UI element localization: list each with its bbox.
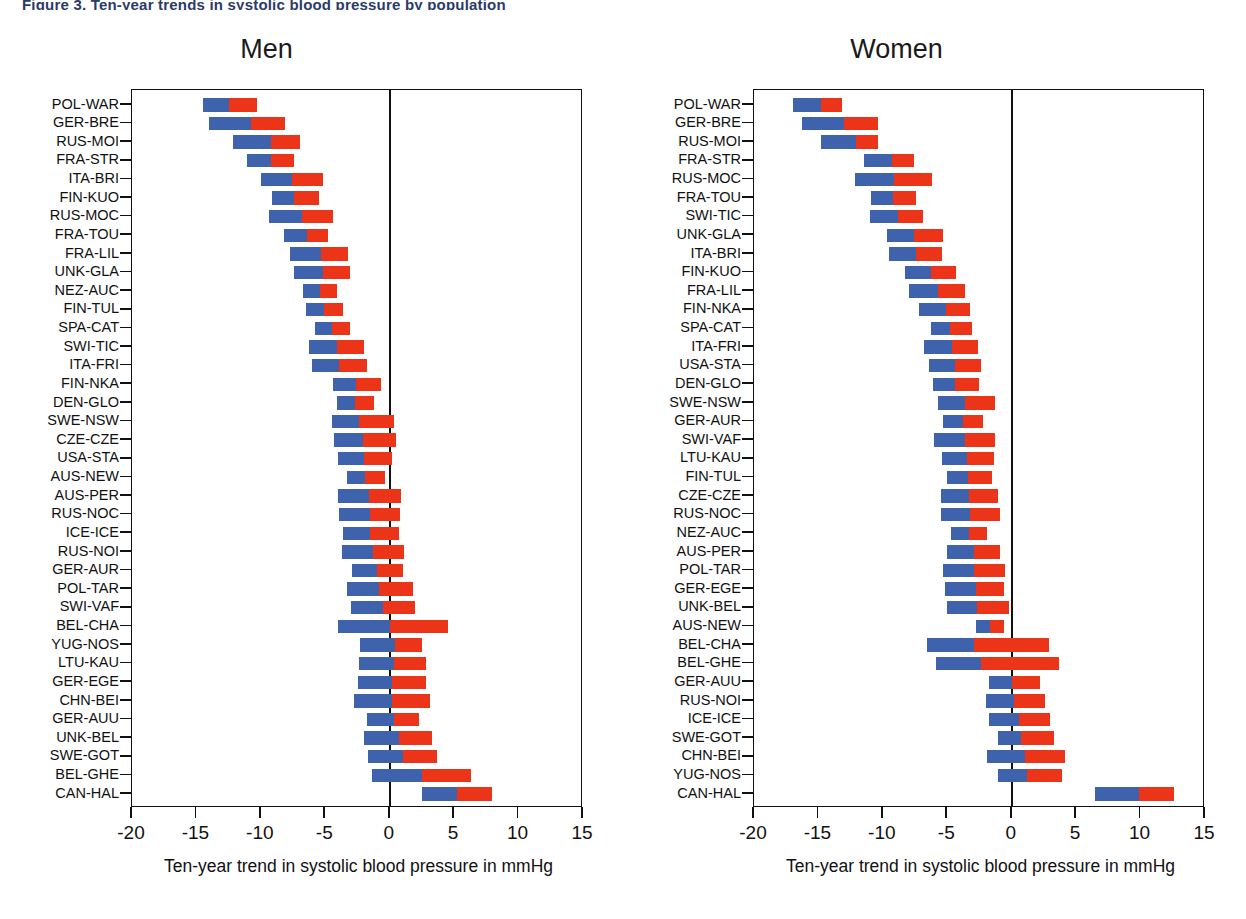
bar-segment-1 [936, 657, 981, 670]
bar-row [132, 710, 581, 729]
bar-segment-2 [364, 452, 392, 465]
y-axis-tick-label: RUS-NOC [673, 504, 741, 523]
x-axis-tick-mark [581, 807, 583, 818]
x-axis-tick-label: -10 [246, 821, 273, 845]
y-axis-tick-mark [742, 774, 753, 776]
y-axis-tick-label: ICE-ICE [688, 709, 741, 728]
bar-segment-1 [338, 489, 369, 502]
y-axis-tick-label: GER-AUU [674, 672, 741, 691]
bar-segment-1 [358, 676, 393, 689]
bar-row [132, 263, 581, 282]
bar-row [132, 282, 581, 301]
x-axis-tick-mark [452, 807, 454, 818]
bar-segment-1 [261, 173, 292, 186]
bar-segment-1 [309, 340, 337, 353]
y-axis-tick-label: SWE-GOT [672, 728, 741, 747]
y-axis-tick-mark [120, 196, 131, 198]
y-axis-tick-mark [120, 159, 131, 161]
y-axis-tick-mark [742, 382, 753, 384]
bar-row [754, 617, 1203, 636]
plot-area-men [131, 89, 582, 807]
y-axis-tick-label: GER-AUR [52, 560, 119, 579]
y-axis-tick-label: USA-STA [57, 448, 119, 467]
y-axis-tick-mark [120, 494, 131, 496]
y-axis-tick-mark [120, 382, 131, 384]
bar-segment-1 [372, 769, 422, 782]
x-axis-tick-mark [1074, 807, 1076, 818]
bar-segment-2 [974, 638, 1049, 651]
y-axis-tick-label: AUS-NEW [51, 467, 119, 486]
y-axis-tick-mark [120, 308, 131, 310]
bar-row [132, 524, 581, 543]
bar-segment-1 [989, 713, 1020, 726]
y-axis-tick-mark [120, 531, 131, 533]
y-axis-tick-mark [742, 587, 753, 589]
bar-segment-1 [364, 731, 399, 744]
bar-segment-2 [892, 154, 914, 167]
bar-segment-2 [968, 471, 992, 484]
bar-segment-2 [990, 620, 1004, 633]
bar-segment-1 [269, 210, 303, 223]
y-axis-tick-label: FIN-KUO [59, 188, 119, 207]
y-axis-tick-mark [742, 308, 753, 310]
bar-segment-2 [399, 731, 433, 744]
y-axis-tick-mark [742, 494, 753, 496]
y-axis-tick-mark [120, 680, 131, 682]
y-axis-tick-label: SPA-CAT [680, 318, 741, 337]
y-axis-tick-mark [742, 289, 753, 291]
x-axis-tick-label: -5 [316, 821, 333, 845]
bar-segment-1 [909, 284, 939, 297]
bar-segment-1 [934, 433, 965, 446]
bar-segment-2 [229, 98, 257, 111]
bar-segment-1 [352, 564, 376, 577]
bar-row [132, 96, 581, 115]
y-axis-tick-label: AUS-PER [55, 486, 119, 505]
x-axis-tick-label: 0 [1005, 821, 1016, 845]
y-axis-tick-mark [120, 103, 131, 105]
y-axis-tick-label: CAN-HAL [677, 784, 741, 803]
y-axis-tick-mark [742, 327, 753, 329]
bar-segment-1 [354, 694, 393, 707]
y-axis-tick-label: SWI-TIC [685, 206, 741, 225]
y-axis-tick-label: FIN-KUO [681, 262, 741, 281]
y-axis-tick-mark [742, 233, 753, 235]
bar-segment-1 [941, 508, 971, 521]
bar-segment-2 [1019, 713, 1050, 726]
bar-row [754, 673, 1203, 692]
x-axis-tick-mark [1139, 807, 1141, 818]
x-axis-tick-mark [195, 807, 197, 818]
bar-segment-2 [363, 433, 397, 446]
bar-row [132, 375, 581, 394]
y-axis-tick-mark [742, 457, 753, 459]
bar-segment-1 [942, 452, 966, 465]
bar-segment-2 [365, 471, 384, 484]
bar-segment-1 [312, 359, 339, 372]
bar-segment-1 [941, 489, 969, 502]
bar-segment-2 [963, 415, 984, 428]
bar-segment-1 [315, 322, 332, 335]
y-axis-tick-mark [742, 140, 753, 142]
y-axis-tick-label: FRA-TOU [677, 188, 741, 207]
y-axis-tick-mark [742, 550, 753, 552]
x-axis-tick-mark [259, 807, 261, 818]
bar-segment-2 [970, 508, 1000, 521]
bar-segment-2 [392, 694, 429, 707]
y-axis-tick-mark [742, 438, 753, 440]
bar-row [132, 245, 581, 264]
x-axis-tick-mark [817, 807, 819, 818]
y-axis-tick-mark [742, 680, 753, 682]
y-axis-tick-mark [120, 606, 131, 608]
y-axis-tick-mark [742, 718, 753, 720]
bar-row [132, 580, 581, 599]
y-axis-tick-mark [120, 587, 131, 589]
y-axis-tick-label: SWI-VAF [60, 597, 119, 616]
y-axis-tick-mark [120, 233, 131, 235]
y-axis-tick-mark [742, 531, 753, 533]
bar-row [132, 189, 581, 208]
bar-segment-2 [395, 638, 422, 651]
bar-row [132, 133, 581, 152]
bar-segment-2 [320, 284, 337, 297]
bar-row [132, 114, 581, 133]
bar-segment-1 [233, 135, 272, 148]
bar-segment-2 [931, 266, 957, 279]
